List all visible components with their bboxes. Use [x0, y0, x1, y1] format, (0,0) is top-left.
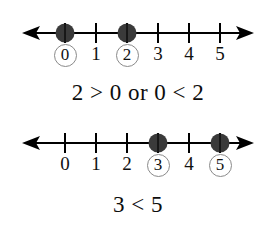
tick-label-3: 3	[143, 41, 173, 67]
tick-label-4: 4	[174, 41, 204, 67]
tick-label-1: 1	[81, 151, 111, 177]
number-line-bottom: 0 1 2 3 4 5	[0, 124, 276, 182]
statement-bottom: 3 < 5	[0, 192, 276, 218]
tick-label-2: 2	[112, 151, 142, 177]
tick-label-0: 0	[50, 151, 80, 177]
tick-label-0: 0	[50, 41, 80, 67]
tick-label-4: 4	[174, 151, 204, 177]
tick-label-5: 5	[205, 151, 235, 177]
statement-top: 2 > 0 or 0 < 2	[0, 80, 276, 106]
tick-label-5: 5	[205, 41, 235, 67]
number-line-figure: 0 1 2 3 4 5 2 > 0 or 0 < 2 0 1	[0, 0, 276, 236]
tick-label-2: 2	[112, 41, 142, 67]
tick-label-1: 1	[81, 41, 111, 67]
number-line-bottom-labels: 0 1 2 3 4 5	[0, 151, 276, 181]
number-line-top: 0 1 2 3 4 5	[0, 14, 276, 72]
number-line-top-labels: 0 1 2 3 4 5	[0, 41, 276, 71]
tick-label-3: 3	[143, 151, 173, 177]
